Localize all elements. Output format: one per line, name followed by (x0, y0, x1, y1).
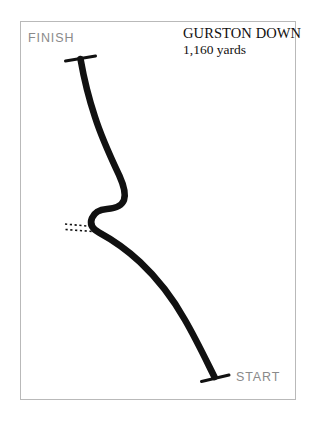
course-length: 1,160 yards (183, 42, 295, 58)
venue-title: GURSTON DOWN (183, 25, 295, 41)
map-frame-border (20, 21, 296, 400)
title-block: GURSTON DOWN 1,160 yards (183, 25, 295, 58)
finish-label: FINISH (28, 31, 74, 45)
course-map-page: FINISH START GURSTON DOWN 1,160 yards (0, 0, 315, 423)
start-label: START (236, 370, 280, 384)
